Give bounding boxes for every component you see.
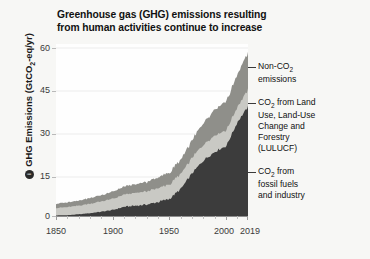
x-tick-mark-1850 <box>56 216 57 220</box>
x-minor-tick <box>124 216 125 219</box>
x-tick-label-1900: 1900 <box>96 226 130 236</box>
x-minor-tick <box>203 216 204 219</box>
x-tick-label-2019: 2019 <box>233 226 267 236</box>
legend-lulucf-text5: (LULUCF) <box>258 143 297 153</box>
x-minor-tick <box>90 216 91 219</box>
legend-lulucf-text3: Change and <box>258 121 305 131</box>
legend-lulucf-text2: Use, Land-Use <box>258 110 315 120</box>
y-tick-label-0: 0 <box>28 211 50 221</box>
x-tick-mark-1950 <box>169 216 170 220</box>
legend-fossil-text3: and industry <box>258 190 305 200</box>
leader-line-fossil <box>248 172 256 173</box>
x-tick-mark-1900 <box>113 216 114 220</box>
legend-nonco2-text: Non-CO <box>258 61 290 71</box>
y-tick-label-30: 30 <box>28 128 50 138</box>
legend-lulucf-text: CO <box>258 97 271 107</box>
x-minor-tick <box>79 216 80 219</box>
legend-nonco2-sub: 2 <box>290 66 294 73</box>
x-minor-tick <box>181 216 182 219</box>
legend-item-lulucf: CO2 from Land Use, Land-Use Change and F… <box>258 97 362 154</box>
x-minor-tick <box>158 216 159 219</box>
x-minor-tick <box>147 216 148 219</box>
x-tick-mark-2019 <box>247 216 248 220</box>
x-minor-tick <box>67 216 68 219</box>
legend-lulucf-text1b: from Land <box>275 97 316 107</box>
legend-item-fossil: CO2 from fossil fuels and industry <box>258 166 362 201</box>
legend-fossil-text2: fossil fuels <box>258 179 298 189</box>
y-tick-label-45: 45 <box>28 85 50 95</box>
stacked-area-svg <box>56 44 248 216</box>
x-minor-tick <box>192 216 193 219</box>
y-axis-title-text: GHG Emissions (GtCO2-eq/yr) <box>23 33 36 167</box>
legend-fossil-text: CO <box>258 166 271 176</box>
leader-line-lulucf <box>248 103 256 104</box>
x-minor-tick <box>135 216 136 219</box>
x-minor-tick <box>237 216 238 219</box>
y-tick-label-60: 60 <box>28 43 50 53</box>
legend-lulucf-text4: Forestry <box>258 132 290 142</box>
legend-fossil-text1b: from <box>275 166 295 176</box>
legend-item-nonco2: Non-CO2 emissions <box>258 61 362 85</box>
page-title: Greenhouse gas (GHG) emissions resulting… <box>57 8 281 34</box>
x-minor-tick <box>215 216 216 219</box>
x-tick-mark-2000 <box>226 216 227 220</box>
y-tick-label-15: 15 <box>28 171 50 181</box>
leader-line-nonco2 <box>248 67 256 68</box>
chart-figure: Greenhouse gas (GHG) emissions resulting… <box>0 0 370 259</box>
legend-nonco2-text2: emissions <box>258 74 296 84</box>
x-minor-tick <box>101 216 102 219</box>
x-axis-line <box>56 216 248 217</box>
x-tick-label-1950: 1950 <box>152 226 186 236</box>
plot-area <box>56 44 248 216</box>
x-tick-label-1850: 1850 <box>39 226 73 236</box>
